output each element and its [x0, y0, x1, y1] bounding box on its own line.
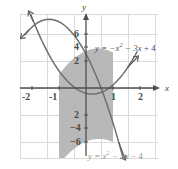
lower-eq-tail: − 4: [129, 151, 143, 161]
x-tick-label-1: 1: [111, 92, 116, 102]
x-tick-label-neg1: -1: [49, 92, 57, 102]
y-axis-label: y: [82, 3, 86, 12]
lower-curve-equation-label: y = x2 − 3x − 4: [88, 150, 143, 160]
y-tick-label-6: 6: [74, 29, 79, 39]
x-tick-label-2: 2: [138, 92, 143, 102]
lower-eq-mid: − 3: [110, 151, 125, 161]
y-tick-label-neg4: −4: [70, 123, 81, 133]
upper-curve-equation-label: y = −x2 − 3x + 4: [95, 42, 156, 52]
graph-figure: -2 -1 1 2 6 4 2 2 −4 −6 x y y = −x2 − 3x…: [0, 0, 178, 169]
upper-eq-tail: + 4: [142, 43, 156, 53]
y-tick-label-4: 4: [74, 42, 79, 52]
y-tick-label-neg6: −6: [70, 137, 81, 147]
coordinate-plane: [0, 0, 178, 169]
y-tick-label-2: 2: [74, 56, 79, 66]
upper-eq-mid: − 3: [123, 43, 138, 53]
x-tick-label-neg2: -2: [22, 92, 30, 102]
x-axis-arrow: [153, 85, 160, 91]
upper-eq-lead: y = −: [95, 43, 116, 53]
y-tick-label-neg2: 2: [74, 110, 79, 120]
x-axis-label: x: [165, 84, 169, 93]
lower-eq-lead: y =: [88, 151, 103, 161]
